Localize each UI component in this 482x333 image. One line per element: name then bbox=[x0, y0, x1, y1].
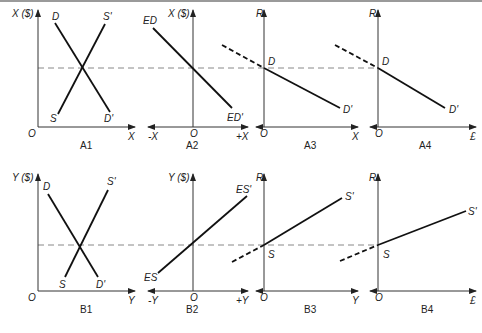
demand-extension-dashed bbox=[335, 45, 378, 68]
origin-label: O bbox=[28, 128, 36, 139]
supply-extension-dashed bbox=[232, 245, 264, 262]
point-label: D bbox=[268, 56, 275, 67]
panel-a4: R D D' O £ A4 bbox=[335, 8, 476, 151]
curve-label: ED' bbox=[227, 112, 244, 123]
curve-label: S' bbox=[468, 206, 478, 217]
demand-curve bbox=[264, 68, 340, 108]
panel-caption: B1 bbox=[80, 304, 93, 315]
x-axis-label: £ bbox=[469, 295, 476, 306]
panel-a1: X ($) D S' S D' O X A1 bbox=[11, 8, 135, 151]
y-axis-label: R bbox=[256, 8, 263, 19]
supply-curve bbox=[378, 211, 466, 245]
curve-label: D' bbox=[343, 104, 353, 115]
panel-caption: A3 bbox=[304, 140, 317, 151]
x-negative-label: -Y bbox=[148, 295, 159, 306]
curve-label: ES' bbox=[236, 184, 252, 195]
exchange-rate-diagram: X ($) D S' S D' O X A1 X ($) ED ED' -X O… bbox=[0, 0, 482, 333]
panel-caption: A4 bbox=[419, 140, 432, 151]
panel-b1: Y ($) D S' S D' O Y B1 bbox=[12, 172, 136, 315]
origin-label: O bbox=[260, 292, 268, 303]
panel-caption: B3 bbox=[304, 304, 317, 315]
curve-label: D bbox=[43, 181, 50, 192]
origin-label: O bbox=[190, 128, 198, 139]
x-axis-label: £ bbox=[469, 131, 476, 142]
point-label: S bbox=[268, 249, 275, 260]
x-axis-label: Y bbox=[128, 295, 136, 306]
panel-caption: B4 bbox=[421, 304, 434, 315]
curve-label: S' bbox=[345, 191, 355, 202]
origin-label: O bbox=[375, 292, 383, 303]
panel-caption: B2 bbox=[186, 304, 199, 315]
panel-a2: X ($) ED ED' -X O +X A2 bbox=[143, 8, 249, 151]
curve-label: D' bbox=[449, 104, 459, 115]
x-axis-label: Y bbox=[352, 295, 360, 306]
curve-label: S bbox=[50, 113, 57, 124]
origin-label: O bbox=[190, 292, 198, 303]
x-axis-label: X bbox=[127, 131, 135, 142]
supply-extension-dashed bbox=[340, 245, 378, 261]
x-positive-label: +X bbox=[236, 131, 249, 142]
curve-label: D' bbox=[104, 113, 114, 124]
point-label: D bbox=[382, 56, 389, 67]
curve-label: S bbox=[59, 279, 66, 290]
curve-label: D' bbox=[96, 279, 106, 290]
supply-curve bbox=[58, 24, 105, 114]
demand-curve bbox=[378, 68, 445, 108]
supply-curve bbox=[264, 198, 342, 245]
x-axis-label: X bbox=[351, 131, 359, 142]
x-positive-label: +Y bbox=[236, 295, 250, 306]
curve-label: ED bbox=[143, 15, 157, 26]
x-negative-label: -X bbox=[148, 131, 158, 142]
y-axis-label: R bbox=[256, 172, 263, 183]
origin-label: O bbox=[260, 128, 268, 139]
y-axis-label: R bbox=[369, 172, 376, 183]
panel-b4: R S S' O £ B4 bbox=[340, 172, 478, 315]
panel-a3: R D D' O X A3 bbox=[222, 8, 359, 151]
demand-extension-dashed bbox=[222, 45, 264, 68]
y-axis-label: X ($) bbox=[167, 8, 190, 19]
y-axis-label: R bbox=[369, 8, 376, 19]
demand-curve bbox=[48, 194, 98, 277]
y-axis-label: Y ($) bbox=[12, 172, 34, 183]
origin-label: O bbox=[375, 128, 383, 139]
panel-caption: A2 bbox=[186, 140, 199, 151]
curve-label: D bbox=[52, 11, 59, 22]
curve-label: S' bbox=[107, 176, 117, 187]
panel-b2: Y ($) ES ES' -Y O +Y B2 bbox=[144, 172, 252, 315]
curve-label: S' bbox=[103, 11, 113, 22]
point-label: S bbox=[383, 249, 390, 260]
y-axis-label: Y ($) bbox=[168, 172, 190, 183]
curve-label: ES bbox=[144, 272, 158, 283]
origin-label: O bbox=[28, 292, 36, 303]
y-axis-label: X ($) bbox=[11, 8, 34, 19]
panel-caption: A1 bbox=[80, 140, 93, 151]
